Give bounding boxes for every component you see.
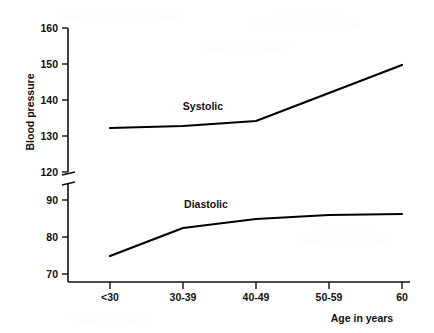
series-line-diastolic bbox=[110, 214, 402, 256]
y-tick-label-140: 140 bbox=[40, 94, 58, 106]
y-tick-label-130: 130 bbox=[40, 130, 58, 142]
chart-svg: 160 150 140 130 120 90 80 70 <30 30-39 4… bbox=[0, 0, 434, 333]
x-tick-label-2: 40-49 bbox=[243, 291, 270, 303]
y-tick-label-80: 80 bbox=[46, 231, 58, 243]
x-tick-label-4: 60 bbox=[396, 291, 408, 303]
y-tick-label-120: 120 bbox=[40, 166, 58, 178]
series-label-systolic: Systolic bbox=[183, 100, 223, 112]
y-axis-title: Blood pressure bbox=[24, 73, 36, 150]
chart-figure: 160 150 140 130 120 90 80 70 <30 30-39 4… bbox=[0, 0, 434, 333]
x-axis-title: Age in years bbox=[331, 312, 394, 324]
series-label-diastolic: Diastolic bbox=[184, 198, 228, 210]
y-tick-label-160: 160 bbox=[40, 22, 58, 34]
x-tick-label-1: 30-39 bbox=[170, 291, 197, 303]
x-tick-label-0: <30 bbox=[101, 291, 119, 303]
y-tick-label-70: 70 bbox=[46, 268, 58, 280]
y-tick-label-90: 90 bbox=[46, 194, 58, 206]
x-tick-label-3: 50-59 bbox=[316, 291, 343, 303]
y-tick-label-150: 150 bbox=[40, 58, 58, 70]
series-line-systolic bbox=[110, 65, 402, 128]
